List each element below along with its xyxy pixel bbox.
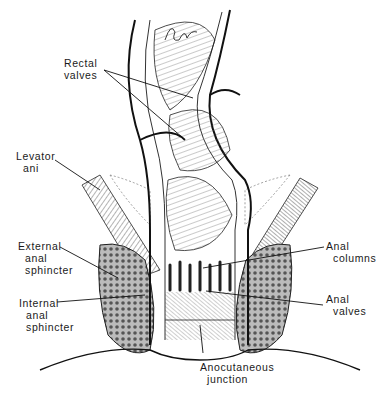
label-anal-valves: Anal valves: [326, 293, 366, 317]
label-line: anal: [26, 309, 48, 321]
label-line: valves: [333, 305, 366, 317]
label-line: sphincter: [25, 264, 73, 276]
anal-columns-drawing: [170, 262, 230, 291]
label-line: anal: [25, 252, 47, 264]
label-line: Internal: [19, 297, 59, 309]
label-line: ani: [23, 162, 39, 174]
label-line: sphincter: [26, 321, 74, 333]
label-internal-anal-sphincter: Internal anal sphincter: [19, 297, 74, 333]
label-line: Levator: [16, 150, 55, 162]
rectum-illustration: [0, 0, 388, 397]
label-line: Anal: [326, 240, 349, 252]
label-line: valves: [64, 69, 97, 81]
label-line: External: [18, 240, 61, 252]
label-line: Anal: [326, 293, 349, 305]
label-anal-columns: Anal columns: [326, 240, 376, 264]
label-line: columns: [333, 252, 376, 264]
anatomy-figure: Rectalvalves Levator ani External anal s…: [0, 0, 388, 397]
label-line: Anocutaneous: [200, 361, 274, 373]
label-anocutaneous-junction: Anocutaneous junction: [200, 361, 274, 385]
label-line: Rectal: [64, 57, 97, 69]
label-external-anal-sphincter: External anal sphincter: [18, 240, 73, 276]
label-line: junction: [207, 373, 248, 385]
label-rectal-valves: Rectalvalves: [64, 57, 97, 81]
label-levator-ani: Levator ani: [16, 150, 55, 174]
